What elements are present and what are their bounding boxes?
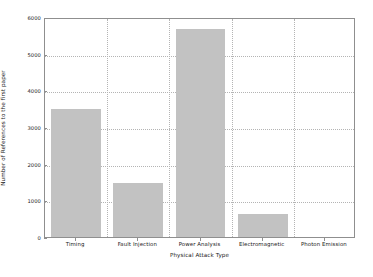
bar-chart-figure: 0100020003000400050006000 TimingFault In… bbox=[0, 0, 373, 277]
x-axis-tick-label: Electromagnetic bbox=[231, 241, 293, 248]
gridline-vertical bbox=[232, 19, 233, 237]
gridline-vertical bbox=[169, 19, 170, 237]
bar-fault-injection bbox=[113, 183, 163, 237]
x-axis-tick-label: Power Analysis bbox=[168, 241, 230, 248]
y-axis-tick-mark bbox=[44, 128, 47, 129]
x-axis-tick-label: Timing bbox=[44, 241, 106, 248]
x-axis-tick-mark bbox=[324, 238, 325, 241]
gridline-vertical bbox=[107, 19, 108, 237]
bar-power-analysis bbox=[176, 29, 226, 237]
y-axis-tick-mark bbox=[44, 201, 47, 202]
y-axis-tick-mark bbox=[44, 55, 47, 56]
bar-electromagnetic bbox=[238, 214, 288, 237]
y-axis-tick-mark bbox=[44, 238, 47, 239]
x-axis-tick-mark bbox=[137, 238, 138, 241]
y-axis-title: Number of References to the first paper bbox=[0, 18, 10, 238]
plot-area bbox=[44, 18, 355, 238]
y-axis-tick-mark bbox=[44, 18, 47, 19]
x-axis-tick-label: Fault Injection bbox=[106, 241, 168, 248]
x-axis-title: Physical Attack Type bbox=[44, 252, 355, 258]
x-axis-tick-label: Photon Emission bbox=[293, 241, 355, 248]
y-axis-tick-mark bbox=[44, 91, 47, 92]
x-axis-tick-mark bbox=[200, 238, 201, 241]
bar-timing bbox=[51, 109, 101, 237]
x-axis-tick-mark bbox=[75, 238, 76, 241]
y-axis-tick-mark bbox=[44, 165, 47, 166]
gridline-vertical bbox=[294, 19, 295, 237]
x-axis-tick-mark bbox=[262, 238, 263, 241]
